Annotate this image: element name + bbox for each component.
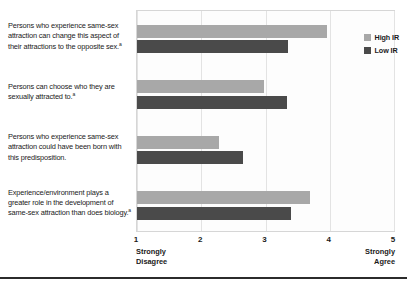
- legend-item-high-ir: High IR: [364, 33, 399, 42]
- scale-anchor-high: Strongly Agree: [365, 247, 395, 267]
- bar-high-ir-2: [137, 80, 264, 93]
- category-footnote-marker-4: a: [128, 207, 131, 213]
- bar-chart: Persons who experience same-sex attracti…: [0, 0, 407, 281]
- category-label-2: Persons can choose who they are sexually…: [8, 82, 132, 102]
- legend-swatch-icon: [364, 47, 371, 54]
- plot-area: [136, 10, 395, 232]
- legend-label: High IR: [375, 33, 399, 42]
- x-tick-label-5: 5: [391, 235, 395, 244]
- x-tick-label-3: 3: [262, 235, 266, 244]
- category-label-1: Persons who experience same-sex attracti…: [8, 21, 132, 52]
- gridline-4: [330, 11, 331, 231]
- x-tick-label-2: 2: [198, 235, 202, 244]
- bar-high-ir-3: [137, 136, 219, 149]
- bar-low-ir-3: [137, 151, 243, 164]
- bar-high-ir-4: [137, 191, 310, 204]
- category-footnote-marker-2: a: [72, 91, 75, 97]
- scale-anchor-low: Strongly Disagree: [136, 247, 167, 267]
- category-label-3: Persons who experience same-sex attracti…: [8, 132, 132, 163]
- bar-high-ir-1: [137, 25, 327, 38]
- x-tick-label-1: 1: [134, 235, 138, 244]
- category-label-column: Persons who experience same-sex attracti…: [0, 0, 132, 232]
- bar-low-ir-1: [137, 40, 288, 53]
- x-tick-label-4: 4: [327, 235, 331, 244]
- bar-low-ir-4: [137, 207, 291, 220]
- chart-legend: High IRLow IR: [364, 33, 399, 55]
- category-label-4: Experience/environment plays a greater r…: [8, 188, 132, 219]
- legend-swatch-icon: [364, 34, 371, 41]
- bottom-rule: [0, 277, 407, 279]
- x-axis: 12345Strongly DisagreeStrongly Agree: [136, 233, 395, 281]
- legend-item-low-ir: Low IR: [364, 46, 399, 55]
- bar-low-ir-2: [137, 96, 287, 109]
- legend-label: Low IR: [375, 46, 398, 55]
- category-footnote-marker-1: a: [119, 40, 122, 46]
